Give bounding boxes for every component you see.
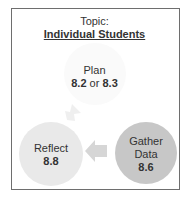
- plan-label: Plan: [0, 64, 189, 76]
- plan-number-b: 8.3: [102, 77, 117, 89]
- reflect-number: 8.8: [19, 155, 83, 167]
- reflect-label: Reflect: [19, 142, 83, 154]
- gather-number: 8.6: [115, 161, 177, 173]
- plan-numbers: 8.2 or 8.3: [0, 77, 189, 89]
- arrow-up-right-icon: [63, 102, 83, 122]
- topic-label: Topic:: [0, 15, 189, 27]
- plan-connector: or: [87, 77, 103, 89]
- arrow-left-icon: [85, 139, 107, 163]
- gather-label-line2: Data: [115, 148, 177, 160]
- reflect-circle: Reflect 8.8: [19, 122, 83, 186]
- topic-title: Individual Students: [0, 28, 189, 40]
- gather-label-line1: Gather: [115, 135, 177, 147]
- plan-number-a: 8.2: [71, 77, 86, 89]
- gather-data-circle: Gather Data 8.6: [115, 122, 177, 184]
